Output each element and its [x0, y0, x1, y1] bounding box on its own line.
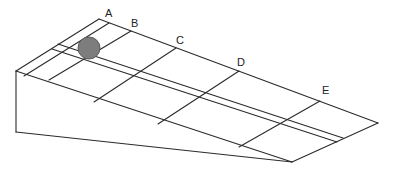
marker-label-b: B	[131, 17, 138, 29]
marker-label-e: E	[322, 84, 329, 96]
ball	[78, 37, 100, 59]
top-face-near-edge	[16, 71, 292, 162]
marker-labels: A B C D E	[105, 7, 329, 96]
marker-label-d: D	[237, 56, 245, 68]
inclined-plane-figure: A B C D E	[0, 0, 394, 170]
track-line-upper	[58, 44, 343, 138]
top-face-right-edge	[292, 123, 378, 162]
inclined-plane-diagram: A B C D E	[0, 0, 394, 170]
grid-line-d	[158, 71, 239, 124]
marker-label-a: A	[105, 7, 113, 19]
grid-line-c	[94, 48, 176, 102]
track	[52, 44, 343, 142]
base-edge	[16, 132, 292, 162]
marker-label-c: C	[176, 34, 184, 46]
track-line-lower	[52, 49, 337, 142]
